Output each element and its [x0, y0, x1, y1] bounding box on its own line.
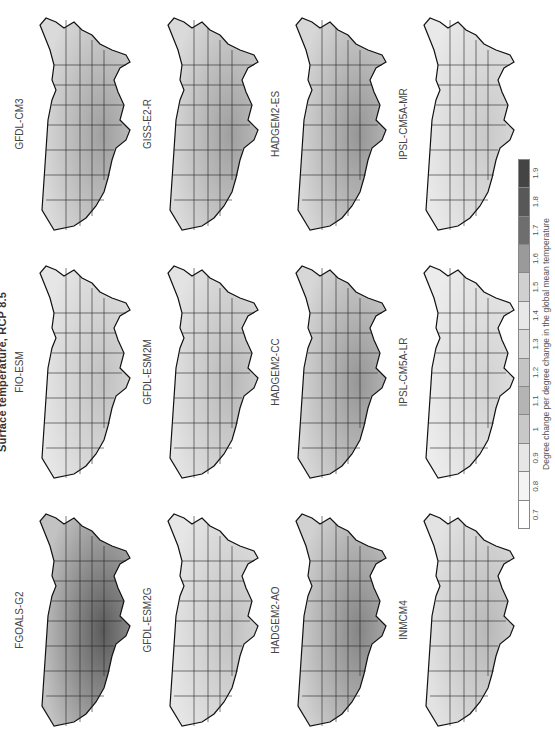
us-map — [34, 504, 134, 736]
map-panel: GISS-E2-R — [136, 0, 264, 248]
map-panel: GFDL-ESM2G — [136, 496, 264, 744]
us-map — [34, 8, 134, 240]
colorbar-swatch — [519, 386, 529, 414]
panel-label: GFDL-ESM2G — [142, 496, 153, 744]
map-panel: HADGEM2-ES — [264, 0, 392, 248]
colorbar-swatch — [519, 414, 529, 442]
panel-label: GISS-E2-R — [142, 0, 153, 248]
colorbar-legend: 0.70.80.911.11.21.31.41.51.61.71.81.9 De… — [518, 159, 551, 529]
map-panel: HADGEM2-CC — [264, 248, 392, 496]
map-panel: FGOALS-G2 — [8, 496, 136, 744]
us-map — [162, 8, 262, 240]
us-map — [162, 256, 262, 488]
panel-label: HADGEM2-AO — [270, 496, 281, 744]
panel-label: GFDL-ESM2M — [142, 248, 153, 496]
colorbar-tick: 1.9 — [531, 159, 540, 187]
us-map — [418, 256, 518, 488]
map-panel: HADGEM2-AO — [264, 496, 392, 744]
colorbar-tick: 1.7 — [531, 216, 540, 244]
colorbar-tick: 1.6 — [531, 244, 540, 272]
map-panel: INMCM4 — [392, 496, 520, 744]
colorbar-swatch — [519, 443, 529, 471]
colorbar-swatch — [519, 160, 529, 187]
us-map — [418, 504, 518, 736]
colorbar-tick: 1.4 — [531, 301, 540, 329]
map-panel: FIO-ESM — [8, 248, 136, 496]
us-map — [290, 256, 390, 488]
figure-title: Surface temperature, RCP 8.5 — [0, 0, 8, 744]
panel-label: GFDL-CM3 — [14, 0, 25, 248]
panel-label: HADGEM2-CC — [270, 248, 281, 496]
map-panel: IPSL-CM5A-MR — [392, 0, 520, 248]
us-map — [34, 256, 134, 488]
us-map — [418, 8, 518, 240]
colorbar-tick: 1.2 — [531, 358, 540, 386]
colorbar-tick: 1.3 — [531, 330, 540, 358]
colorbar-swatch — [519, 244, 529, 272]
panel-label: FGOALS-G2 — [14, 496, 25, 744]
colorbar-tick: 1 — [531, 415, 540, 443]
colorbar-swatch — [519, 358, 529, 386]
colorbar-swatch — [519, 471, 529, 499]
colorbar-tick: 1.5 — [531, 273, 540, 301]
panel-label: INMCM4 — [398, 496, 409, 744]
us-map — [290, 504, 390, 736]
panel-label: IPSL-CM5A-LR — [398, 248, 409, 496]
colorbar-swatch — [519, 187, 529, 215]
colorbar-tick: 0.7 — [531, 501, 540, 529]
colorbar-caption: Degree change per degree change in the g… — [541, 159, 551, 529]
us-map — [290, 8, 390, 240]
colorbar-swatch — [519, 301, 529, 329]
colorbar — [518, 159, 530, 529]
colorbar-tick: 1.8 — [531, 187, 540, 215]
colorbar-swatch — [519, 216, 529, 244]
colorbar-swatch — [519, 329, 529, 357]
colorbar-ticks: 0.70.80.911.11.21.31.41.51.61.71.81.9 — [531, 159, 540, 529]
panel-label: HADGEM2-ES — [270, 0, 281, 248]
colorbar-tick: 1.1 — [531, 387, 540, 415]
colorbar-tick: 0.8 — [531, 472, 540, 500]
colorbar-tick: 0.9 — [531, 444, 540, 472]
map-panel: IPSL-CM5A-LR — [392, 248, 520, 496]
panel-label: IPSL-CM5A-MR — [398, 0, 409, 248]
map-panel: GFDL-ESM2M — [136, 248, 264, 496]
map-panel: GFDL-CM3 — [8, 0, 136, 248]
colorbar-swatch — [519, 272, 529, 300]
figure: Surface temperature, RCP 8.5 FGOALS-G2 F… — [0, 0, 555, 744]
colorbar-swatch — [519, 500, 529, 528]
us-map — [162, 504, 262, 736]
panel-label: FIO-ESM — [14, 248, 25, 496]
